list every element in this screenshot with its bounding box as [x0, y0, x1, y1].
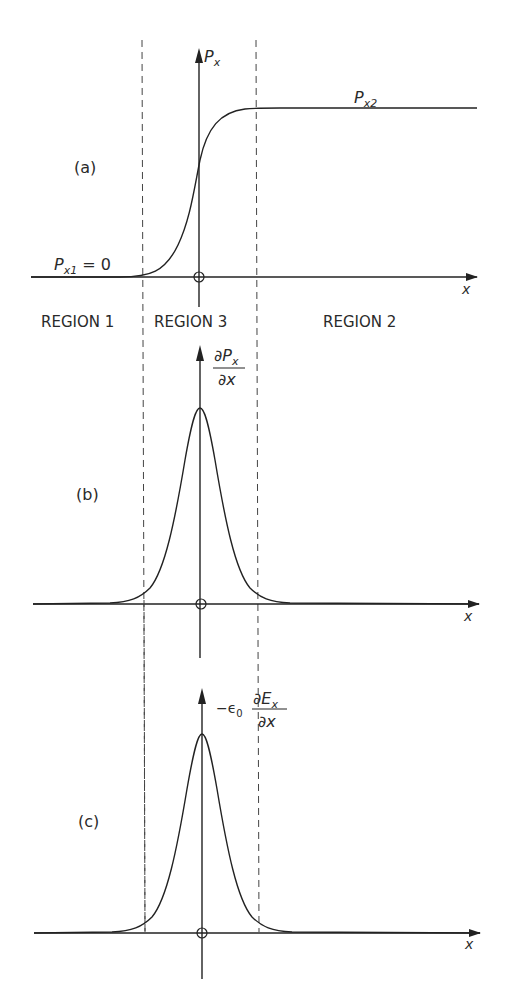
panel-b-y-label-den: ∂x	[218, 370, 236, 389]
panel-a-x-label: x	[461, 281, 471, 297]
panel-c: −ϵ0 ∂Ex ∂x x (c)	[34, 600, 480, 979]
panel-b-y-arrow-icon	[196, 345, 204, 361]
region-boundary-right	[256, 40, 259, 932]
panel-c-y-label-num: ∂Ex	[253, 689, 278, 711]
panel-b-tag: (b)	[76, 485, 99, 504]
panel-b-x-label: x	[463, 608, 473, 624]
panel-b-y-label-num: ∂Px	[214, 346, 239, 368]
polarization-diagram: Px x (a) Px1 = 0 Px2 REGION 1 REGION 3 R…	[0, 0, 510, 1005]
region-1-label: REGION 1	[41, 313, 114, 331]
panel-a-y-label: Px	[204, 47, 221, 69]
panel-c-x-label: x	[464, 936, 474, 952]
panel-c-y-arrow-icon	[198, 688, 206, 704]
panel-b: ∂Px ∂x x (b)	[33, 345, 479, 658]
region-2-label: REGION 2	[323, 313, 396, 331]
panel-b-peak-curve	[33, 408, 479, 604]
panel-a: Px x (a) Px1 = 0 Px2	[31, 47, 477, 307]
region-3-label: REGION 3	[154, 313, 227, 331]
panel-c-y-label-den: ∂x	[258, 712, 276, 731]
panel-a-tag: (a)	[74, 158, 96, 177]
panel-c-peak-curve	[34, 734, 480, 933]
panel-a-y-arrow-icon	[195, 48, 203, 63]
panel-c-y-label-prefix: −ϵ0	[216, 700, 243, 719]
panel-a-right-value: Px2	[354, 88, 377, 110]
panel-a-left-value: Px1 = 0	[54, 255, 111, 277]
panel-c-tag: (c)	[78, 812, 99, 831]
panel-a-step-curve	[31, 108, 477, 277]
